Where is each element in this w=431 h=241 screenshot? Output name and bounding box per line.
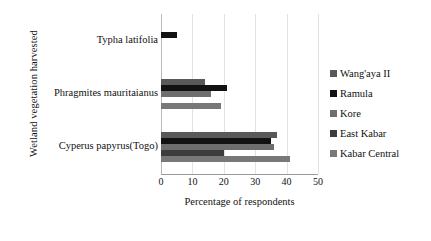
legend-item-4[interactable]: Kabar Central bbox=[330, 143, 428, 163]
legend-label: Ramula bbox=[340, 88, 373, 99]
category-label: Cyperus papyrus(Togo) bbox=[59, 141, 158, 152]
category-label: Phragmites mauritaianus bbox=[54, 88, 158, 99]
plot-area bbox=[161, 14, 318, 174]
legend-swatch-icon bbox=[330, 70, 337, 77]
gridline-40 bbox=[287, 14, 288, 174]
legend-item-3[interactable]: East Kabar bbox=[330, 123, 428, 143]
x-tick-label-10: 10 bbox=[187, 176, 197, 187]
category-label: Typha latifolia bbox=[97, 35, 158, 46]
legend-item-0[interactable]: Wang'aya II bbox=[330, 63, 428, 83]
legend-item-1[interactable]: Ramula bbox=[330, 83, 428, 103]
legend-swatch-icon bbox=[330, 110, 337, 117]
legend-swatch-icon bbox=[330, 130, 337, 137]
x-tick-label-50: 50 bbox=[313, 176, 323, 187]
legend-swatch-icon bbox=[330, 150, 337, 157]
legend-label: Kabar Central bbox=[340, 148, 399, 159]
bar bbox=[161, 91, 211, 97]
x-tick-label-30: 30 bbox=[250, 176, 260, 187]
legend-label: East Kabar bbox=[340, 128, 386, 139]
x-tick-label-0: 0 bbox=[159, 176, 164, 187]
category-axis-labels: Typha latifoliaPhragmites mauritaianusCy… bbox=[18, 14, 158, 174]
bar bbox=[161, 156, 290, 162]
gridline-50 bbox=[318, 14, 319, 174]
legend-swatch-icon bbox=[330, 90, 337, 97]
legend-item-2[interactable]: Kore bbox=[330, 103, 428, 123]
x-axis-title: Percentage of respondents bbox=[161, 196, 318, 207]
category-axis-line bbox=[161, 174, 318, 175]
x-axis-tick-labels: 01020304050 bbox=[161, 176, 318, 192]
x-tick-label-40: 40 bbox=[282, 176, 292, 187]
legend-label: Wang'aya II bbox=[340, 68, 390, 79]
bar-chart: Wetland vegetation harvested Typha latif… bbox=[0, 0, 431, 241]
x-tick-label-20: 20 bbox=[219, 176, 229, 187]
legend: Wang'aya IIRamulaKoreEast KabarKabar Cen… bbox=[330, 63, 428, 163]
bar bbox=[161, 103, 221, 109]
bar bbox=[161, 32, 177, 38]
legend-label: Kore bbox=[340, 108, 361, 119]
